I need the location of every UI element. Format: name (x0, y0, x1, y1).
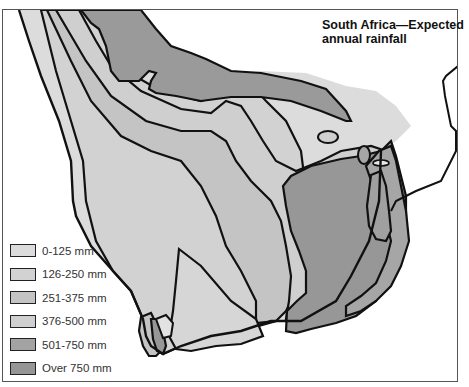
legend-item: 501-750 mm (10, 333, 112, 357)
legend-item: 126-250 mm (10, 263, 112, 287)
legend-label: 126-250 mm (42, 268, 107, 280)
legend-swatch (10, 244, 36, 257)
legend-swatch (10, 362, 36, 375)
legend-label: 251-375 mm (42, 292, 107, 304)
legend-swatch (10, 268, 36, 281)
legend-label: Over 750 mm (42, 362, 112, 374)
map-title: South Africa—Expected annual rainfall (322, 18, 464, 46)
legend-item: 251-375 mm (10, 286, 112, 310)
legend: 0-125 mm 126-250 mm 251-375 mm 376-500 m… (10, 239, 112, 380)
legend-label: 376-500 mm (42, 315, 107, 327)
map-title-line2: annual rainfall (322, 32, 464, 46)
legend-item: 376-500 mm (10, 310, 112, 334)
legend-swatch (10, 315, 36, 328)
map-title-line1: South Africa—Expected (322, 18, 464, 32)
legend-item: 0-125 mm (10, 239, 112, 263)
legend-swatch (10, 291, 36, 304)
enclave-north-small (318, 131, 338, 143)
legend-label: 0-125 mm (42, 245, 94, 257)
enclave-lesotho (358, 146, 370, 164)
legend-label: 501-750 mm (42, 339, 107, 351)
legend-swatch (10, 338, 36, 351)
legend-item: Over 750 mm (10, 357, 112, 381)
